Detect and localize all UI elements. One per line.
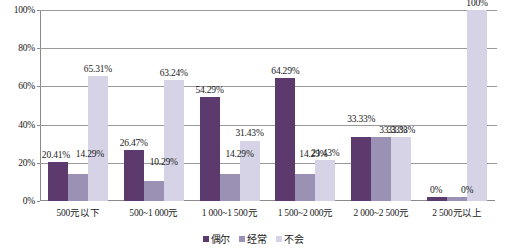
legend-swatch-icon	[203, 236, 209, 242]
bar-value-label: 31.43%	[236, 129, 264, 139]
bar[interactable]	[295, 10, 315, 201]
bar[interactable]	[200, 10, 220, 201]
legend-swatch-icon	[276, 236, 282, 242]
x-axis-label: 2 500元以上	[419, 205, 495, 219]
bar-chart: 0%20%40%60%80%100% 20.41%14.29%65.31%26.…	[0, 0, 506, 250]
bar-fill	[200, 97, 220, 201]
legend-label: 偶尔	[211, 231, 231, 246]
bar[interactable]	[315, 10, 335, 201]
bar-group-bars	[192, 10, 268, 201]
bar-group-bars	[343, 10, 419, 201]
x-axis-label: 500~1 000元	[116, 205, 192, 219]
bar[interactable]	[68, 10, 88, 201]
bar-group: 64.29%14.29%21.43%	[267, 10, 343, 201]
bar-fill	[275, 78, 295, 201]
bar-group: 20.41%14.29%65.31%	[40, 10, 116, 201]
bar-fill	[351, 137, 371, 201]
bar-value-label: 64.29%	[271, 67, 299, 77]
bar-value-label: 54.29%	[196, 86, 224, 96]
bar-value-label: 33.33%	[347, 115, 375, 125]
legend-swatch-icon	[239, 236, 245, 242]
bar[interactable]	[351, 10, 371, 201]
bar-group-bars	[40, 10, 116, 201]
bar[interactable]	[144, 10, 164, 201]
bar-group: 33.33%33.33%33.33%	[343, 10, 419, 201]
bar-value-label: 63.24%	[160, 69, 188, 79]
bar-fill	[48, 162, 68, 201]
bar[interactable]	[447, 10, 467, 201]
bar-group-bars	[267, 10, 343, 201]
bar[interactable]	[427, 10, 447, 201]
bar-groups: 20.41%14.29%65.31%26.47%10.29%63.24%54.2…	[40, 10, 495, 201]
bar-value-label: 10.29%	[150, 158, 178, 168]
bar-value-label: 65.31%	[84, 65, 112, 75]
y-tick-label: 60%	[18, 81, 35, 91]
bar-value-label: 33.33%	[387, 126, 415, 136]
bar-fill	[371, 137, 391, 201]
bar[interactable]	[124, 10, 144, 201]
bar-value-label: 0%	[461, 186, 473, 196]
legend-label: 经常	[247, 231, 267, 246]
bar[interactable]	[391, 10, 411, 201]
bar-fill	[315, 160, 335, 201]
bar-value-label: 14.29%	[226, 150, 254, 160]
bar[interactable]	[371, 10, 391, 201]
bar-value-label: 21.43%	[311, 149, 339, 159]
y-tick-label: 100%	[14, 5, 35, 15]
bar-fill	[427, 197, 447, 201]
legend-item[interactable]: 经常	[239, 231, 267, 246]
y-tick-label: 20%	[18, 158, 35, 168]
bar[interactable]	[48, 10, 68, 201]
legend-label: 不会	[284, 231, 304, 246]
bar-group-bars	[419, 10, 495, 201]
bar-value-label: 20.41%	[42, 151, 70, 161]
chart-legend: 偶尔经常不会	[0, 231, 506, 246]
bar-fill	[68, 174, 88, 201]
bar[interactable]	[240, 10, 260, 201]
y-tick-mark	[37, 201, 40, 202]
bar[interactable]	[275, 10, 295, 201]
bar-fill	[295, 174, 315, 201]
bar-value-label: 14.29%	[76, 150, 104, 160]
bar-group: 0%0%100%	[419, 10, 495, 201]
bar-fill	[88, 76, 108, 201]
bar[interactable]	[220, 10, 240, 201]
bar-value-label: 100%	[466, 0, 487, 8]
bar-fill	[164, 80, 184, 201]
bar[interactable]	[88, 10, 108, 201]
bar-value-label: 26.47%	[120, 139, 148, 149]
bar-fill	[144, 181, 164, 201]
bar-fill	[391, 137, 411, 201]
bar[interactable]	[467, 10, 487, 201]
x-axis-label: 1 000~1 500元	[192, 205, 268, 219]
legend-item[interactable]: 不会	[276, 231, 304, 246]
bar-group: 54.29%14.29%31.43%	[192, 10, 268, 201]
bar-value-label: 0%	[430, 186, 442, 196]
bar-fill	[124, 150, 144, 201]
y-tick-label: 0%	[23, 196, 35, 206]
x-axis-labels: 500元以下500~1 000元1 000~1 500元1 500~2 000元…	[40, 205, 495, 219]
y-tick-label: 40%	[18, 120, 35, 130]
bar-group: 26.47%10.29%63.24%	[116, 10, 192, 201]
legend-item[interactable]: 偶尔	[203, 231, 231, 246]
bar-fill	[220, 174, 240, 201]
plot-area: 0%20%40%60%80%100% 20.41%14.29%65.31%26.…	[40, 10, 495, 201]
bar-fill	[447, 197, 467, 201]
y-tick-label: 80%	[18, 43, 35, 53]
x-axis-label: 500元以下	[40, 205, 116, 219]
bar-fill	[467, 10, 487, 201]
bar[interactable]	[164, 10, 184, 201]
x-axis-label: 1 500~2 000元	[267, 205, 343, 219]
bar-group-bars	[116, 10, 192, 201]
x-axis-label: 2 000~2 500元	[343, 205, 419, 219]
